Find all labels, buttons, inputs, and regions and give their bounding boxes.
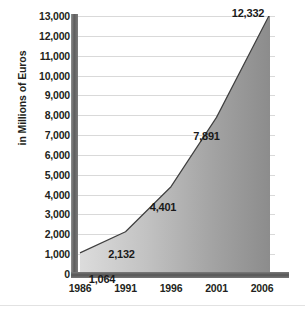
data-point-label: 1,064 xyxy=(89,273,116,285)
y-tick-label: 3,000 xyxy=(24,209,70,220)
area-chart: in Millions of Euros 13,00012,00011,0001… xyxy=(0,0,305,309)
y-tick-label: 9,000 xyxy=(24,90,70,101)
y-tick-label: 10,000 xyxy=(24,70,70,81)
y-tick-label: 7,000 xyxy=(24,130,70,141)
x-axis-tick-labels: 19861991199620012006 xyxy=(0,282,305,300)
y-tick-label: 5,000 xyxy=(24,170,70,181)
y-tick-label: 6,000 xyxy=(24,150,70,161)
y-tick-label: 1,000 xyxy=(24,249,70,260)
y-tick-label: 0 xyxy=(24,269,70,280)
y-tick-label: 8,000 xyxy=(24,110,70,121)
y-tick-label: 12,000 xyxy=(24,31,70,42)
x-tick-label: 2006 xyxy=(232,282,292,294)
y-tick-label: 4,000 xyxy=(24,189,70,200)
y-axis-bar xyxy=(71,14,78,276)
data-point-label: 4,401 xyxy=(150,201,177,213)
area-series-path xyxy=(78,16,275,274)
bottom-divider xyxy=(0,305,305,306)
y-tick-label: 11,000 xyxy=(24,50,70,61)
plot-area xyxy=(78,16,275,274)
data-point-label: 12,332 xyxy=(232,7,264,19)
y-axis-tick-labels: 13,00012,00011,00010,0009,0008,0007,0006… xyxy=(24,16,70,274)
data-point-label: 7,891 xyxy=(193,130,220,142)
y-tick-label: 13,000 xyxy=(24,11,70,22)
data-point-label: 2,132 xyxy=(108,248,135,260)
y-tick-label: 2,000 xyxy=(24,229,70,240)
